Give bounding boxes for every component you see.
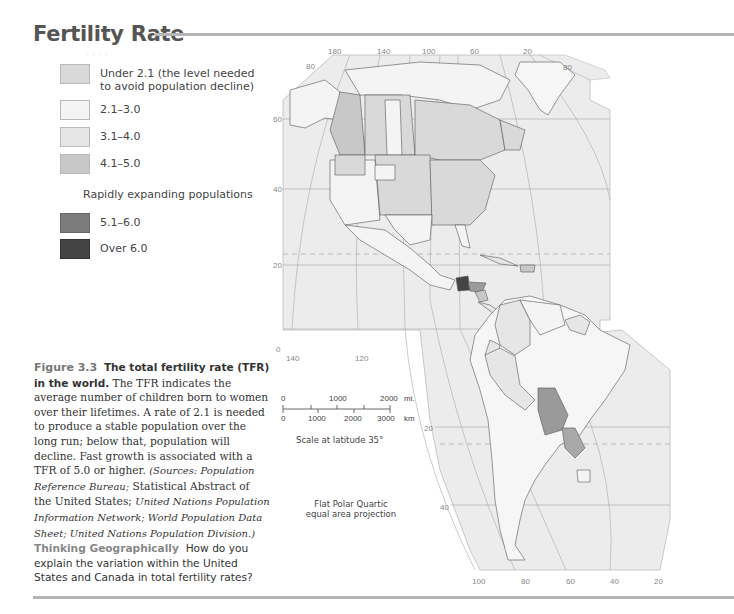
scale-note: Scale at latitude 35° [296, 435, 383, 445]
uruguay [577, 470, 590, 482]
lon-label-bottom: 100 [472, 577, 486, 586]
lat-label-left: 0 [276, 345, 281, 354]
guatemala [456, 276, 470, 291]
projection-line-1: Flat Polar Quartic [296, 499, 406, 509]
usa-central [375, 155, 432, 215]
lon-label-top: 20 [523, 47, 532, 56]
canada-saskatchewan [385, 100, 402, 155]
lat-label-left: 80 [306, 62, 315, 71]
lon-label-bottom: 60 [566, 577, 575, 586]
scale-km-tick: 3000 [377, 414, 395, 423]
lat-label-left: 20 [273, 261, 282, 270]
scale-mi-tick: 0 [281, 394, 286, 403]
scale-mi-tick: 1000 [329, 394, 347, 403]
projection-note: Flat Polar Quartic equal area projection [296, 499, 406, 519]
scale-km-unit: km [404, 414, 415, 423]
usa-wyoming [375, 165, 395, 180]
scale-labels: 0 1000 2000 mi. 0 1000 2000 3000 km [281, 394, 415, 423]
scale-mi-tick: 2000 [380, 394, 398, 403]
hispaniola [520, 265, 535, 272]
lat-label-south: 20 [424, 424, 433, 433]
fertility-map: 180 140 100 60 20 80 80 60 40 20 0 140 1… [0, 0, 734, 614]
lon-label-bottom: 40 [610, 577, 619, 586]
scale-mi-unit: mi. [404, 394, 415, 403]
lon-label-top: 180 [328, 47, 342, 56]
lon-label-left: 120 [355, 354, 369, 363]
scale-km-tick: 0 [281, 414, 286, 423]
lon-label-left: 140 [286, 354, 300, 363]
lat-label-left: 60 [273, 115, 282, 124]
bottom-rule [33, 596, 734, 599]
projection-line-2: equal area projection [296, 509, 406, 519]
lon-label-bottom: 20 [654, 577, 663, 586]
usa-northwest [335, 155, 365, 175]
lon-label-top: 140 [377, 47, 391, 56]
lat-label-left: 40 [273, 185, 282, 194]
scale-bar [283, 405, 390, 413]
lat-label-right: 80 [563, 63, 572, 72]
lon-label-bottom: 80 [521, 577, 530, 586]
lat-label-south: 40 [440, 503, 449, 512]
scale-km-tick: 1000 [308, 414, 326, 423]
lon-label-top: 60 [470, 47, 479, 56]
scale-km-tick: 2000 [344, 414, 362, 423]
lon-label-top: 100 [422, 47, 436, 56]
